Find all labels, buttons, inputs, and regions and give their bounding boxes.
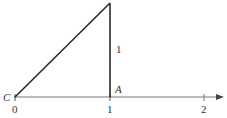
tick-label-1: 1 bbox=[107, 103, 113, 115]
tick-label-0: 0 bbox=[12, 103, 18, 115]
triangle-diagram: C A 1 0 1 2 bbox=[0, 0, 227, 118]
point-c-label: C bbox=[3, 91, 11, 103]
side-length-label: 1 bbox=[116, 43, 122, 55]
arrow-head-icon bbox=[216, 94, 224, 100]
hypotenuse bbox=[15, 3, 110, 97]
tick-label-2: 2 bbox=[201, 103, 207, 115]
point-a-label: A bbox=[114, 83, 122, 95]
